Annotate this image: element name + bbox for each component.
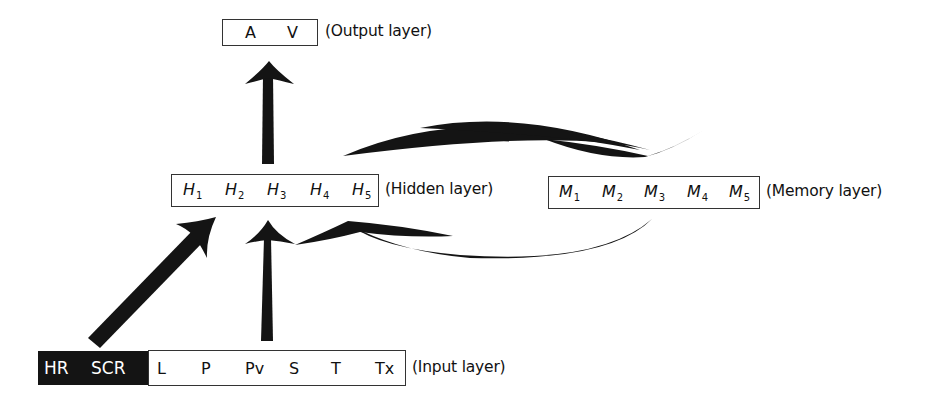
- output-node-v: V: [287, 23, 298, 42]
- input-layer-label: (Input layer): [412, 358, 505, 376]
- hidden-node-h4: H4: [310, 180, 329, 201]
- memory-layer-label: (Memory layer): [766, 182, 882, 200]
- hidden-node-h1: H1: [183, 180, 202, 201]
- hidden-to-memory-arrow: [343, 122, 704, 158]
- output-layer-box: A V: [222, 19, 318, 46]
- input-node-hr: HR: [44, 358, 69, 378]
- input-node-t: T: [331, 359, 341, 378]
- hidden-node-h5: H5: [352, 180, 371, 201]
- connection-arrows: [0, 0, 930, 406]
- memory-layer-box: M1 M2 M3 M4 M5: [548, 176, 760, 209]
- memory-node-m3: M3: [644, 182, 665, 203]
- input-layer-box: L P Pv S T Tx: [148, 350, 406, 386]
- input-to-hidden-arrow: [245, 220, 295, 341]
- output-layer-label: (Output layer): [325, 22, 432, 40]
- hidden-node-h2: H2: [225, 180, 244, 201]
- input-node-l: L: [157, 359, 166, 378]
- hidden-to-output-arrow: [245, 61, 294, 164]
- hidden-layer-label: (Hidden layer): [385, 180, 493, 198]
- memory-node-m4: M4: [687, 182, 708, 203]
- memory-node-m5: M5: [729, 182, 750, 203]
- hidden-node-h3: H3: [267, 180, 286, 201]
- input-node-scr: SCR: [91, 358, 125, 378]
- hidden-layer-box: H1 H2 H3 H4 H5: [171, 174, 379, 207]
- memory-node-m1: M1: [559, 182, 580, 203]
- input-node-pv: Pv: [245, 359, 264, 378]
- output-node-a: A: [245, 23, 256, 42]
- input-node-tx: Tx: [375, 359, 394, 378]
- input-node-s: S: [289, 359, 299, 378]
- input-layer-highlighted-box: HR SCR: [38, 351, 148, 385]
- memory-to-hidden-arrow: [295, 219, 652, 258]
- input-node-p: P: [201, 359, 211, 378]
- memory-node-m2: M2: [602, 182, 623, 203]
- input-highlighted-to-hidden-arrow: [88, 217, 216, 348]
